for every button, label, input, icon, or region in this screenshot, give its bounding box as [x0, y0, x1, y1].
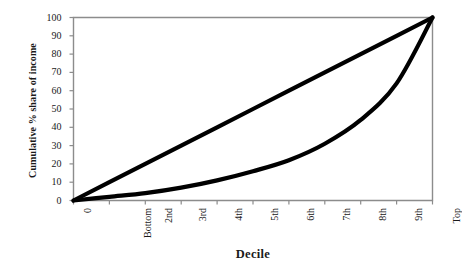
lorenz-curve-chart: Cumulative % share of income Decile 0102…: [0, 0, 461, 272]
plot-area: [0, 0, 461, 272]
